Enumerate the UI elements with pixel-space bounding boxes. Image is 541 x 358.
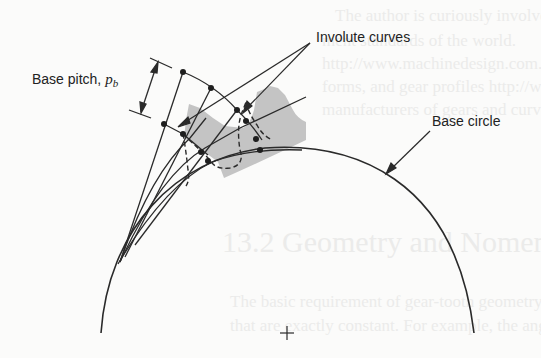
base-pitch-dimension <box>129 58 172 118</box>
base-circle-leader <box>386 131 430 174</box>
involute-gear-diagram <box>0 0 541 358</box>
base-circle <box>101 147 474 333</box>
base-pitch-symbol: p <box>105 71 113 87</box>
center-marker-icon <box>280 326 294 340</box>
label-involute-curves: Involute curves <box>316 29 410 45</box>
label-base-pitch: Base pitch, pb <box>32 71 118 89</box>
base-pitch-text: Base pitch, <box>32 71 105 87</box>
label-base-circle: Base circle <box>432 113 500 129</box>
base-pitch-subscript: b <box>113 77 119 89</box>
gear-teeth <box>184 86 306 178</box>
